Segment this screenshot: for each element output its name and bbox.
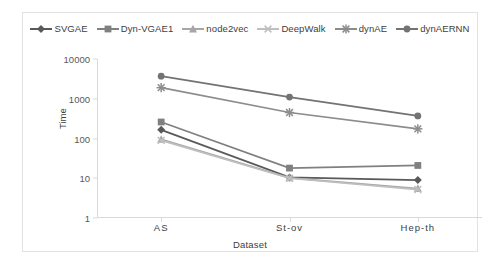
y-axis-tick-mark bbox=[93, 98, 97, 99]
legend-label: SVGAE bbox=[54, 23, 87, 34]
chart-container: SVGAEDyn-VGAE1node2vecDeepWalkdynAEdynAE… bbox=[22, 12, 478, 252]
data-point-diamond-marker bbox=[157, 126, 165, 134]
y-axis-title: Time bbox=[57, 108, 68, 129]
y-axis-tick-mark bbox=[93, 59, 97, 60]
x-axis-tick-mark bbox=[290, 218, 291, 222]
data-point-diamond-marker bbox=[37, 25, 45, 33]
data-point-star-marker bbox=[157, 83, 166, 92]
x-axis-title: Dataset bbox=[23, 239, 477, 250]
x-axis-tick-label: Hep-th bbox=[401, 222, 436, 233]
legend-diamond-icon bbox=[30, 24, 52, 34]
x-axis-tick-label: St-ov bbox=[276, 222, 303, 233]
x-axis-tick-label: AS bbox=[154, 222, 169, 233]
data-point-triangle-marker bbox=[189, 24, 197, 32]
data-point-circle-marker bbox=[414, 113, 421, 120]
data-point-star-marker bbox=[413, 124, 422, 133]
y-axis-tick-mark bbox=[93, 138, 97, 139]
data-point-square-marker bbox=[158, 119, 165, 126]
legend-label: dynAE bbox=[359, 23, 388, 34]
x-axis-tick-mark bbox=[418, 218, 419, 222]
y-axis-tick-mark bbox=[93, 178, 97, 179]
data-point-circle-marker bbox=[286, 94, 293, 101]
series-dynae bbox=[157, 83, 423, 133]
data-point-square-marker bbox=[286, 165, 293, 172]
data-point-circle-marker bbox=[158, 73, 165, 80]
data-point-x-marker bbox=[265, 25, 272, 32]
data-point-square-marker bbox=[414, 162, 421, 169]
data-point-star-marker bbox=[341, 24, 350, 33]
y-axis-tick-label: 10000 bbox=[64, 54, 97, 65]
x-axis-tick-mark bbox=[161, 218, 162, 222]
legend-triangle-icon bbox=[182, 24, 204, 34]
data-point-star-marker bbox=[285, 108, 294, 117]
legend-label: Dyn-VGAE1 bbox=[121, 23, 174, 34]
legend-item-dynae[interactable]: dynAE bbox=[335, 23, 388, 34]
series-dyn-vgae1 bbox=[158, 119, 421, 172]
series-layer bbox=[97, 59, 482, 218]
legend-item-dyn-vgae1[interactable]: Dyn-VGAE1 bbox=[97, 23, 174, 34]
legend-item-dynaernn[interactable]: dynAERNN bbox=[396, 23, 469, 34]
legend-square-icon bbox=[97, 24, 119, 34]
legend-item-deepwalk[interactable]: DeepWalk bbox=[257, 23, 325, 34]
legend-label: node2vec bbox=[206, 23, 248, 34]
legend-item-node2vec[interactable]: node2vec bbox=[182, 23, 248, 34]
chart-legend: SVGAEDyn-VGAE1node2vecDeepWalkdynAEdynAE… bbox=[23, 23, 477, 34]
y-axis-tick-mark bbox=[93, 218, 97, 219]
legend-item-svgae[interactable]: SVGAE bbox=[30, 23, 87, 34]
legend-label: dynAERNN bbox=[420, 23, 469, 34]
data-point-square-marker bbox=[104, 25, 111, 32]
data-point-circle-marker bbox=[404, 25, 411, 32]
legend-star-icon bbox=[335, 24, 357, 34]
legend-x-icon bbox=[257, 24, 279, 34]
data-point-diamond-marker bbox=[414, 176, 422, 184]
plot-area: 110100100010000ASSt-ovHep-th bbox=[97, 59, 482, 218]
legend-circle-icon bbox=[396, 24, 418, 34]
legend-label: DeepWalk bbox=[281, 23, 325, 34]
